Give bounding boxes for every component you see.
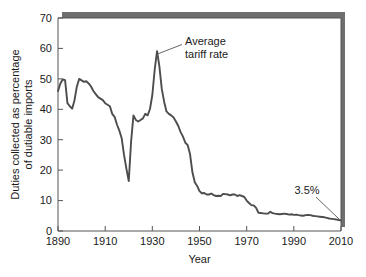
- y-tick-label-70: 70: [40, 12, 52, 24]
- x-tick-label-1970: 1970: [234, 235, 258, 247]
- y-axis-title-line1: Duties collected as percentage: [9, 49, 21, 199]
- y-tick-label-10: 10: [40, 194, 52, 206]
- chart-canvas: 0 10 20 30 40 50 60 70 1890 1910 1930 19…: [0, 0, 366, 277]
- y-tick-label-60: 60: [40, 42, 52, 54]
- y-tick-label-40: 40: [40, 103, 52, 115]
- x-tick-label-1930: 1930: [140, 235, 164, 247]
- annotation-average-tariff-rate-line1: Average: [185, 35, 226, 47]
- x-tick-label-1990: 1990: [282, 235, 306, 247]
- x-tick-label-2010: 2010: [329, 235, 353, 247]
- x-tick-label-1910: 1910: [93, 235, 117, 247]
- x-axis-title: Year: [188, 253, 211, 265]
- y-tick-label-30: 30: [40, 134, 52, 146]
- tariff-rate-chart-figure: 0 10 20 30 40 50 60 70 1890 1910 1930 19…: [0, 0, 366, 277]
- y-tick-label-20: 20: [40, 164, 52, 176]
- annotation-average-tariff-rate-line2: tariff rate: [185, 48, 228, 60]
- annotation-final-value-label: 3.5%: [294, 184, 319, 196]
- x-tick-label-1950: 1950: [187, 235, 211, 247]
- y-axis-title-line2: of dutiable imports: [22, 79, 34, 169]
- y-axis-tick-labels: 0 10 20 30 40 50 60 70: [40, 12, 52, 237]
- y-axis-title: Duties collected as percentage of dutiab…: [9, 49, 34, 199]
- x-axis-tick-labels: 1890 1910 1930 1950 1970 1990 2010: [46, 235, 353, 247]
- x-tick-label-1890: 1890: [46, 235, 70, 247]
- y-tick-label-50: 50: [40, 73, 52, 85]
